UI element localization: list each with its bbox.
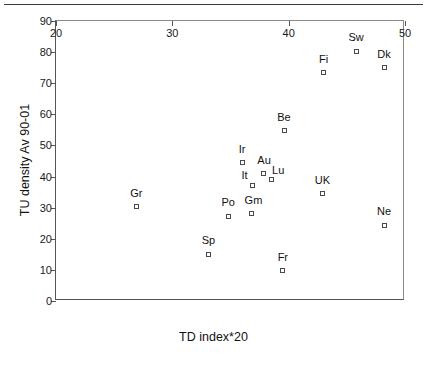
x-tick-mark: [56, 21, 57, 26]
x-tick-mark: [289, 21, 290, 26]
x-tick-label: 40: [283, 28, 295, 39]
data-point-marker: [269, 177, 274, 182]
header-divider: [4, 4, 423, 5]
data-point-label: It: [242, 170, 248, 181]
data-point-marker: [250, 183, 255, 188]
data-point-label: Fi: [319, 54, 328, 65]
data-point-marker: [354, 49, 359, 54]
y-tick-label: 60: [40, 109, 52, 120]
data-point-label: UK: [315, 175, 330, 186]
x-tick-label: 30: [166, 28, 178, 39]
data-point-label: Be: [277, 112, 290, 123]
data-point-label: Sw: [348, 32, 363, 43]
data-point-marker: [240, 160, 245, 165]
data-point-label: Au: [257, 155, 270, 166]
y-tick-label: 20: [40, 233, 52, 244]
data-point-label: Ne: [377, 206, 391, 217]
y-tick-label: 0: [46, 296, 52, 307]
data-point-marker: [280, 268, 285, 273]
x-tick-mark: [405, 21, 406, 26]
data-point-marker: [321, 70, 326, 75]
data-point-marker: [320, 191, 325, 196]
y-tick-label: 80: [40, 47, 52, 58]
data-point-label: Po: [221, 197, 234, 208]
data-point-label: Ir: [239, 144, 246, 155]
data-point-label: Gr: [130, 188, 142, 199]
y-tick-label: 30: [40, 202, 52, 213]
scatter-plot-figure: 0102030405060708090 20304050 GrSpPoGmIrI…: [0, 0, 427, 365]
y-tick-label: 10: [40, 264, 52, 275]
data-point-label: Fr: [278, 252, 288, 263]
x-axis-title: TD index*20: [0, 330, 427, 344]
data-point-marker: [382, 65, 387, 70]
data-point-marker: [226, 214, 231, 219]
y-tick-label: 90: [40, 16, 52, 27]
data-point-label: Dk: [377, 49, 390, 60]
data-point-marker: [382, 223, 387, 228]
plot-area: 0102030405060708090 20304050 GrSpPoGmIrI…: [55, 20, 404, 300]
x-tick-label: 20: [50, 28, 62, 39]
data-point-marker: [261, 171, 266, 176]
y-axis-title: TU density Av 90-01: [16, 20, 34, 300]
data-point-label: Sp: [202, 235, 215, 246]
data-point-marker: [134, 204, 139, 209]
y-tick-label: 70: [40, 78, 52, 89]
y-tick-label: 50: [40, 140, 52, 151]
y-tick-label: 40: [40, 171, 52, 182]
data-point-label: Gm: [245, 195, 263, 206]
x-tick-mark: [172, 21, 173, 26]
data-point-marker: [206, 252, 211, 257]
x-tick-label: 50: [399, 28, 411, 39]
data-point-marker: [282, 128, 287, 133]
data-point-label: Lu: [272, 165, 284, 176]
data-point-marker: [249, 211, 254, 216]
